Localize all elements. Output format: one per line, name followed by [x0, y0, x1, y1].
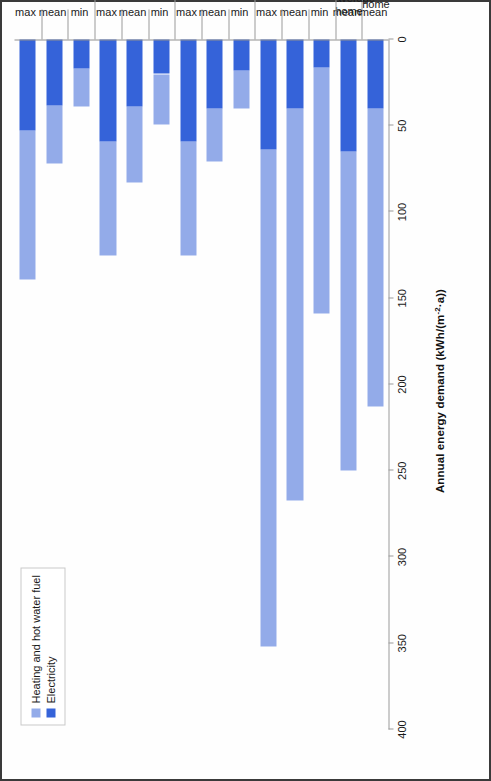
value-axis-tick — [389, 124, 394, 125]
value-axis-tick — [389, 383, 394, 384]
value-axis-title: Annual energy demand (kWh/(m-2·a)) — [433, 12, 447, 769]
legend-swatch-electricity — [46, 708, 55, 717]
legend-label-electricity: Electricity — [45, 656, 57, 703]
value-axis-tick-label: 50 — [396, 105, 408, 145]
value-axis-tick-label: 300 — [396, 537, 408, 577]
value-axis-tick-label: 100 — [396, 192, 408, 232]
value-axis-tick — [389, 642, 394, 643]
value-axis-title-main: Annual energy demand (kWh/(m — [434, 314, 446, 493]
value-axis-tick-label: 200 — [396, 364, 408, 404]
value-axis-tick-label: 250 — [396, 450, 408, 490]
value-axis-tick — [389, 728, 394, 729]
category-stat-label: max — [4, 5, 48, 17]
value-axis-tick — [389, 38, 394, 39]
value-axis-tick-label: 400 — [396, 709, 408, 749]
legend-label-heating: Heating and hot water fuel — [30, 575, 42, 703]
value-axis-tick — [389, 297, 394, 298]
legend-item: Electricity — [45, 575, 57, 717]
legend-swatch-heating — [31, 708, 40, 717]
value-axis-title-superscript: -2 — [433, 307, 442, 314]
legend-item: Heating and hot water fuel — [30, 575, 42, 717]
chart-legend: Heating and hot water fuel Electricity — [21, 567, 66, 725]
category-axis — [15, 39, 389, 729]
scanned-figure-page: 050100150200250300350400 Annual energy d… — [0, 0, 491, 781]
stacked-bar-chart: 050100150200250300350400 Annual energy d… — [15, 12, 477, 769]
rotated-chart-wrapper: 050100150200250300350400 Annual energy d… — [15, 12, 477, 769]
value-axis-tick-label: 150 — [396, 278, 408, 318]
value-axis-tick — [389, 211, 394, 212]
value-axis-tick-label: 0 — [396, 19, 408, 59]
value-axis-tick — [389, 556, 394, 557]
value-axis-tick-label: 350 — [396, 623, 408, 663]
value-axis-tick — [389, 469, 394, 470]
value-axis-title-tail: ·a)) — [434, 288, 446, 306]
